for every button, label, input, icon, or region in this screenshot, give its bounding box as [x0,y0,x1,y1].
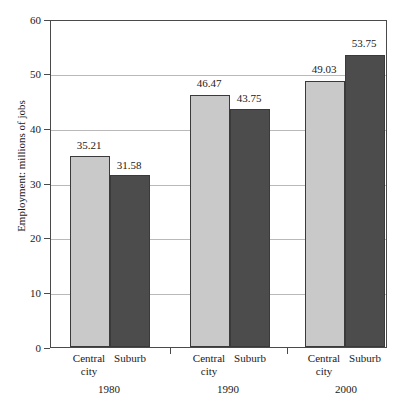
x-label-1980-suburb: Suburb [95,352,165,365]
bar-1990-central-city [190,95,230,347]
x-group-label-1990: 1990 [168,383,288,395]
y-tick-label-0: 0 [11,343,41,354]
bar-1990-suburb [230,109,270,347]
y-tick-mark-0 [44,348,50,349]
gridline-50 [51,75,386,76]
x-tick-mark-2 [287,348,288,354]
bar-value-1990-central-city: 46.47 [174,78,244,89]
x-label-line2: city [174,365,244,378]
x-label-line1: Suburb [349,352,381,364]
bar-1980-central-city [70,156,110,347]
y-tick-label-60: 60 [11,15,41,26]
bar-value-2000-central-city: 49.03 [289,64,359,75]
x-tick-mark-1 [170,348,171,354]
x-label-2000-suburb: Suburb [330,352,400,365]
x-label-line1: Suburb [234,352,266,364]
bar-value-1980-central-city: 35.21 [54,140,124,151]
bar-2000-central-city [305,81,345,347]
bar-1980-suburb [110,175,150,347]
x-group-label-2000: 2000 [286,383,406,395]
bar-value-2000-suburb: 53.75 [329,38,399,49]
bar-2000-suburb [345,55,385,347]
y-axis-title: Employment: millions of jobs [15,41,27,291]
bar-value-1980-suburb: 31.58 [94,160,164,171]
x-label-line2: city [54,365,124,378]
x-label-line2: city [289,365,359,378]
bar-value-1990-suburb: 43.75 [214,93,284,104]
x-group-label-1980: 1980 [49,383,169,395]
x-label-line1: Suburb [114,352,146,364]
bar-chart: 60 50 40 30 20 10 0 Employment: millions… [0,0,420,409]
x-label-1990-suburb: Suburb [215,352,285,365]
